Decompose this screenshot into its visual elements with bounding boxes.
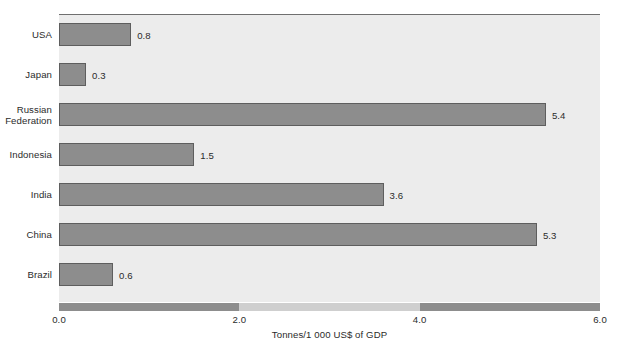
axis-segment	[59, 303, 239, 311]
bar-track: 5.3	[59, 223, 626, 246]
bar-row: Brazil0.6	[0, 263, 626, 286]
category-label: Indonesia	[0, 149, 52, 161]
bar-value-label: 3.6	[390, 189, 404, 200]
bar	[59, 23, 131, 46]
bar-value-label: 0.6	[119, 269, 133, 280]
category-label: China	[0, 229, 52, 241]
bar-value-label: 0.3	[92, 69, 106, 80]
category-label: Russian Federation	[0, 103, 52, 126]
category-label: India	[0, 189, 52, 201]
bar-track: 0.3	[59, 63, 626, 86]
bar	[59, 263, 113, 286]
bar-value-label: 5.3	[543, 229, 557, 240]
bar-track: 3.6	[59, 183, 626, 206]
bar-value-label: 5.4	[552, 109, 566, 120]
bar	[59, 223, 537, 246]
bar-row: China5.3	[0, 223, 626, 246]
bar-row: Russian Federation5.4	[0, 103, 626, 126]
bar-track: 5.4	[59, 103, 626, 126]
x-tick-label: 0.0	[52, 314, 66, 325]
x-axis-title: Tonnes/1 000 US$ of GDP	[59, 329, 600, 340]
x-tick-label: 6.0	[593, 314, 607, 325]
bar	[59, 103, 546, 126]
x-tick-label: 2.0	[233, 314, 247, 325]
axis-segment	[420, 303, 600, 311]
bar-row: India3.6	[0, 183, 626, 206]
bar-value-label: 1.5	[200, 149, 214, 160]
bar-track: 0.6	[59, 263, 626, 286]
bar-chart: USA0.8Japan0.3Russian Federation5.4Indon…	[0, 0, 626, 347]
bar	[59, 63, 86, 86]
x-tick-label: 4.0	[413, 314, 427, 325]
axis-segment	[239, 303, 419, 311]
bar-value-label: 0.8	[137, 29, 151, 40]
x-axis-bar	[59, 303, 600, 311]
bar-track: 1.5	[59, 143, 626, 166]
bar	[59, 183, 384, 206]
category-label: Brazil	[0, 269, 52, 281]
bar-track: 0.8	[59, 23, 626, 46]
bar-row: Indonesia1.5	[0, 143, 626, 166]
category-label: USA	[0, 29, 52, 41]
bar-row: Japan0.3	[0, 63, 626, 86]
bar-row: USA0.8	[0, 23, 626, 46]
bar	[59, 143, 194, 166]
category-label: Japan	[0, 69, 52, 81]
